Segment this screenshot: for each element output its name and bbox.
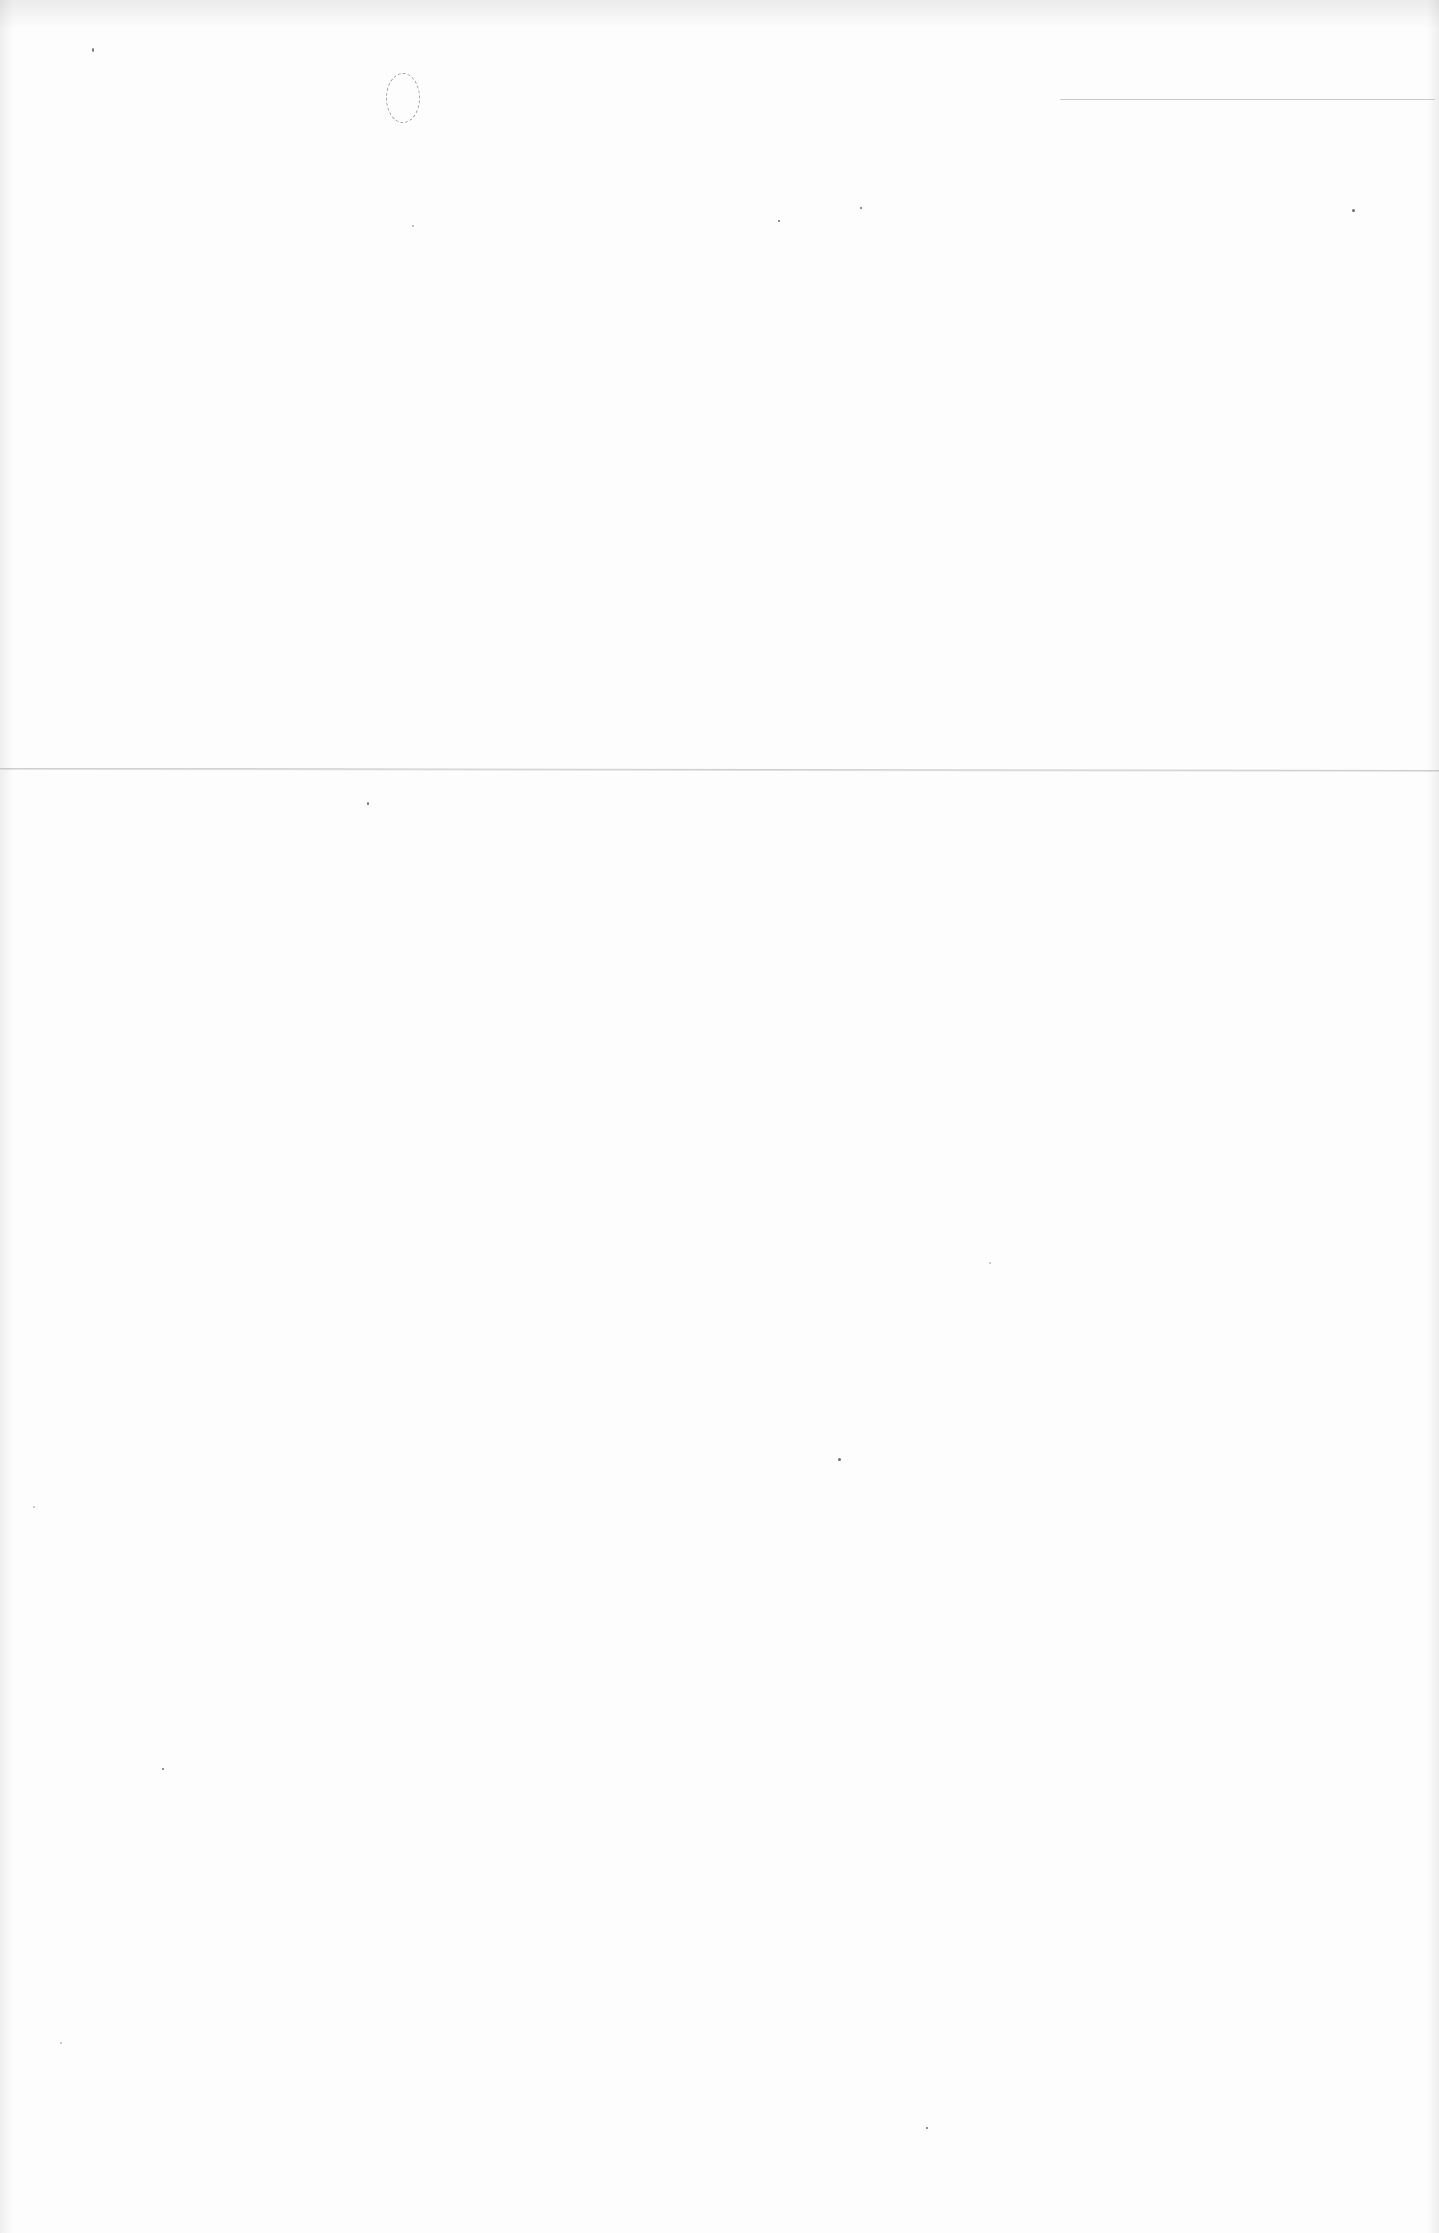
- dust-speck: [860, 207, 862, 209]
- page-text: [0, 0, 1, 1]
- dust-speck: [162, 1768, 164, 1770]
- dust-speck: [367, 802, 369, 805]
- dust-speck: [838, 1458, 841, 1461]
- dust-speck: [60, 2042, 62, 2044]
- dust-speck: [412, 225, 414, 227]
- dust-speck: [926, 2127, 928, 2129]
- pencil-circle-mark: [386, 73, 420, 123]
- dust-speck: [989, 1262, 991, 1264]
- blank-scanned-page: [0, 0, 1439, 2233]
- dust-speck: [1352, 209, 1355, 212]
- faint-top-rule-line: [1060, 99, 1435, 100]
- dust-speck: [33, 1506, 35, 1508]
- dust-speck: [778, 220, 780, 222]
- page-fold-line: [0, 768, 1439, 772]
- dust-speck: [92, 48, 94, 52]
